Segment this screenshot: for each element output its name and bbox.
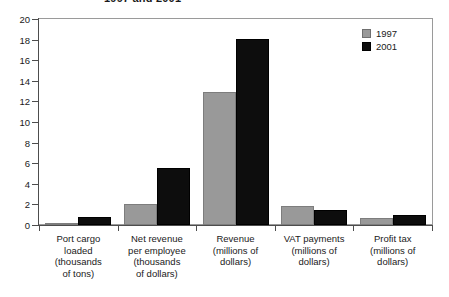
y-axis-tick (32, 19, 38, 20)
y-axis-tick-label: 14 (4, 75, 30, 86)
category-label-line: (millions of (345, 245, 440, 257)
y-axis-tick-label: 4 (4, 178, 30, 189)
y-axis-labels: 02468101214161820 (0, 0, 30, 297)
chart-title: 1997 and 2001 (104, 0, 364, 4)
bar-2001-group-4 (314, 210, 347, 225)
chart-legend: 1997 2001 (362, 27, 397, 53)
bar-2001-group-3 (236, 39, 269, 225)
category-label-line: of dollars) (110, 268, 205, 280)
x-axis-tick (353, 226, 354, 231)
y-axis-tick (32, 204, 38, 205)
y-axis-tick-label: 6 (4, 158, 30, 169)
bar-1997-group-5 (360, 218, 393, 225)
bar-1997-group-2 (124, 204, 157, 225)
y-axis-tick (32, 184, 38, 185)
y-axis-tick (32, 225, 38, 226)
bar-2001-group-5 (393, 215, 426, 225)
y-axis-tick-label: 0 (4, 220, 30, 231)
category-label-line: Profit tax (345, 233, 440, 245)
y-axis-tick-label: 16 (4, 55, 30, 66)
y-axis-tick (32, 81, 38, 82)
y-axis-tick (32, 143, 38, 144)
y-axis-tick (32, 40, 38, 41)
legend-swatch-1997-icon (362, 29, 371, 38)
x-axis-end-tick (432, 226, 433, 231)
y-axis-tick-label: 12 (4, 96, 30, 107)
x-axis-category-label: Profit tax(millions ofdollars) (345, 233, 440, 268)
legend-label-1997: 1997 (376, 28, 397, 39)
x-axis-tick (118, 226, 119, 231)
x-axis-line (38, 225, 433, 226)
y-axis-tick-label: 10 (4, 117, 30, 128)
x-axis-tick (275, 226, 276, 231)
x-axis-end-tick (39, 226, 40, 231)
y-axis-tick (32, 101, 38, 102)
bar-chart: 1997 and 2001 02468101214161820 Port car… (0, 0, 449, 297)
y-axis-tick (32, 122, 38, 123)
bar-2001-group-2 (157, 168, 190, 225)
bar-2001-group-1 (78, 217, 111, 225)
legend-swatch-2001-icon (362, 42, 371, 51)
bar-1997-group-3 (203, 92, 236, 225)
y-axis-tick-label: 18 (4, 34, 30, 45)
x-axis-tick (196, 226, 197, 231)
legend-item-1997: 1997 (362, 27, 397, 40)
y-axis-tick-label: 2 (4, 199, 30, 210)
y-axis-tick-label: 8 (4, 137, 30, 148)
y-axis-tick (32, 163, 38, 164)
bar-1997-group-1 (45, 223, 78, 225)
category-label-line: dollars) (345, 256, 440, 268)
legend-label-2001: 2001 (376, 41, 397, 52)
bar-1997-group-4 (281, 206, 314, 225)
y-axis-tick-label: 20 (4, 14, 30, 25)
y-axis-tick (32, 60, 38, 61)
legend-item-2001: 2001 (362, 40, 397, 53)
